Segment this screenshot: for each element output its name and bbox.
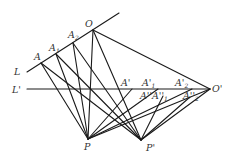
label-A2-prime-main: A' bbox=[174, 77, 184, 88]
label-L: L bbox=[13, 66, 20, 77]
label-P: P bbox=[83, 141, 91, 152]
label-O: O bbox=[85, 18, 93, 29]
label-A1-sub: 1 bbox=[56, 47, 60, 54]
label-A2-prime-sub: 2 bbox=[183, 82, 188, 89]
label-A1-dprime-main: A'' bbox=[151, 90, 164, 101]
line-Pprime-A2dprime bbox=[141, 97, 190, 140]
projection-diagram: L L' A A1 A2 O O' A' A'1 A'2 A'' A''1 A'… bbox=[0, 0, 231, 161]
label-A1-dprime: A''1 bbox=[151, 90, 168, 102]
label-A2-prime: A'2 bbox=[174, 77, 188, 89]
line-A2-P bbox=[73, 43, 88, 139]
label-A-prime: A' bbox=[120, 77, 130, 88]
label-L-prime: L' bbox=[11, 84, 21, 95]
label-A2-main: A bbox=[67, 29, 75, 40]
label-A1-dprime-sub: 1 bbox=[164, 95, 168, 102]
label-A2: A2 bbox=[67, 29, 79, 41]
label-A2-dprime-sub: 2 bbox=[194, 95, 199, 102]
label-A1-prime: A'1 bbox=[141, 77, 155, 89]
label-A2-sub: 2 bbox=[74, 34, 79, 41]
label-O-prime: O' bbox=[212, 83, 222, 94]
label-A1-prime-main: A' bbox=[141, 77, 151, 88]
line-O-Oprime bbox=[93, 30, 210, 89]
label-A1: A1 bbox=[48, 42, 60, 54]
label-A2-dprime: A''2 bbox=[182, 90, 199, 102]
label-A-dprime: A'' bbox=[139, 90, 152, 101]
label-A1-main: A bbox=[48, 42, 56, 53]
line-Pprime-A1dprime bbox=[141, 96, 163, 140]
label-P-prime: P' bbox=[145, 142, 155, 153]
line-O-P bbox=[88, 30, 93, 139]
label-A2-dprime-main: A'' bbox=[182, 90, 195, 101]
line-O-Pprime bbox=[93, 30, 141, 140]
line-A1-P bbox=[56, 54, 88, 139]
label-A1-prime-sub: 1 bbox=[151, 82, 155, 89]
line-A-P bbox=[41, 63, 88, 139]
label-A: A bbox=[33, 51, 41, 62]
